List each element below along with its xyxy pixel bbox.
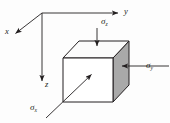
sigma-z-symbol: σ (101, 16, 105, 26)
sigma-y-label: σy (146, 61, 153, 71)
x-axis-label: x (5, 27, 9, 36)
y-axis-label: y (124, 7, 128, 16)
figure-canvas (0, 0, 170, 123)
sigma-y-subscript: y (151, 65, 153, 71)
sigma-x-label: σx (30, 103, 37, 113)
x-axis-line (16, 13, 43, 34)
z-axis-label: z (45, 80, 48, 89)
sigma-z-subscript: z (106, 21, 108, 27)
stress-cube-figure: x y z σz σy σx (0, 0, 170, 123)
sigma-z-label: σz (101, 17, 108, 27)
sigma-y-symbol: σ (146, 60, 150, 70)
sigma-x-subscript: x (35, 107, 37, 113)
cube-front-face (63, 58, 113, 102)
sigma-x-symbol: σ (30, 102, 34, 112)
